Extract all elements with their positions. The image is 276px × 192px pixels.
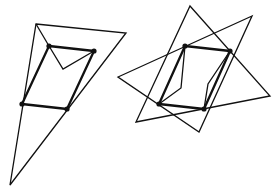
vertex-dot-3 [19,101,24,106]
right-figure [118,6,270,132]
parallelogram [22,46,94,109]
parallelogram [159,46,230,109]
vertex-dot-3 [156,101,161,106]
vertex-dot-0 [46,43,51,48]
vertex-dot-2 [201,106,206,111]
outer-triangle-0 [136,6,270,122]
inner-segment-0 [36,24,49,46]
diagram-canvas [0,0,276,192]
outer-triangle-1 [118,16,252,132]
left-figure [10,24,126,185]
vertex-dot-1 [91,48,96,53]
vertex-dot-1 [227,48,232,53]
vertex-dot-0 [182,43,187,48]
vertex-dot-2 [64,106,69,111]
